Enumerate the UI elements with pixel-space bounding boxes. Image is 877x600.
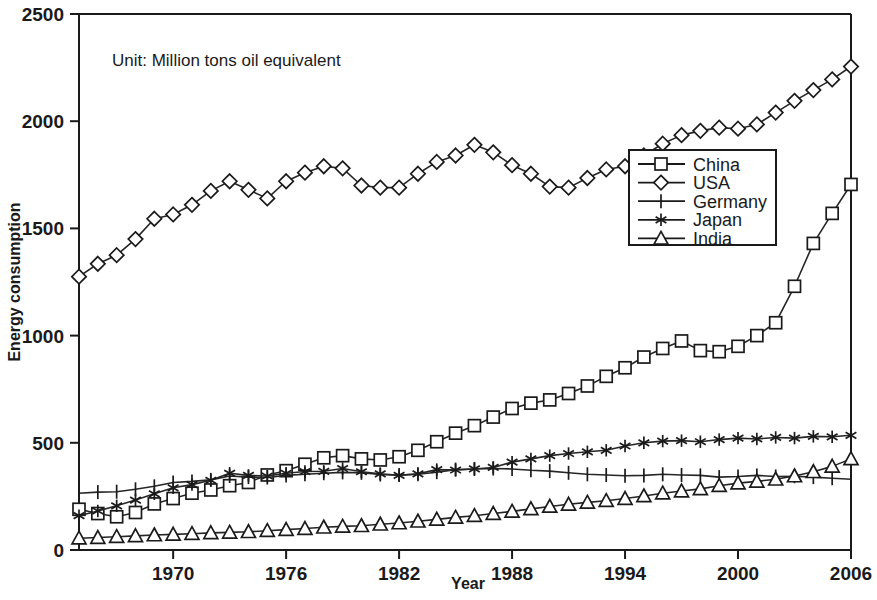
data-point-diamond <box>543 179 557 193</box>
data-point-diamond <box>185 198 199 212</box>
data-point-diamond <box>524 167 538 181</box>
data-point-diamond <box>317 159 331 173</box>
data-point-square <box>713 346 725 358</box>
data-point-square <box>807 237 819 249</box>
data-point-diamond <box>241 183 255 197</box>
legend-item-label: USA <box>693 173 730 193</box>
data-point-square <box>129 506 141 518</box>
data-point-diamond <box>72 269 86 283</box>
data-point-diamond <box>505 158 519 172</box>
data-point-diamond <box>712 120 726 134</box>
legend-item-label: China <box>693 155 741 175</box>
data-point-square <box>355 453 367 465</box>
data-point-diamond <box>787 94 801 108</box>
data-point-square <box>694 345 706 357</box>
data-point-diamond <box>731 122 745 136</box>
x-tick-label: 1970 <box>152 563 194 584</box>
y-axis-title: Energy consumption <box>6 202 23 361</box>
data-point-square <box>374 454 386 466</box>
series-path <box>79 435 851 515</box>
x-tick-label: 2006 <box>830 563 872 584</box>
data-point-diamond <box>204 184 218 198</box>
data-point-square <box>525 397 537 409</box>
data-point-diamond <box>166 207 180 221</box>
data-point-diamond <box>693 124 707 138</box>
data-point-diamond <box>222 174 236 188</box>
data-point-square <box>468 420 480 432</box>
data-point-square <box>655 158 667 170</box>
data-point-square <box>393 451 405 463</box>
data-point-square <box>412 444 424 456</box>
legend-item-label: India <box>693 229 733 249</box>
data-point-diamond <box>298 165 312 179</box>
x-tick-label: 1988 <box>491 563 533 584</box>
x-tick-label: 1994 <box>604 563 647 584</box>
chart-canvas: 05001000150020002500 1970197619821988199… <box>0 0 877 600</box>
data-point-square <box>487 411 499 423</box>
data-point-diamond <box>825 72 839 86</box>
data-point-square <box>826 207 838 219</box>
data-point-diamond <box>467 138 481 152</box>
unit-annotation: Unit: Million tons oil equivalent <box>112 51 341 70</box>
data-point-square <box>431 436 443 448</box>
data-point-diamond <box>806 83 820 97</box>
y-tick-label: 2000 <box>22 111 64 132</box>
data-point-square <box>167 493 179 505</box>
data-point-square <box>450 427 462 439</box>
data-point-square <box>676 335 688 347</box>
x-axis-title: Year <box>451 575 485 592</box>
legend-item-label: Germany <box>693 192 767 212</box>
data-point-diamond <box>430 155 444 169</box>
x-tick-label: 2000 <box>717 563 759 584</box>
x-tick-label: 1976 <box>265 563 307 584</box>
legend-item-label: Japan <box>693 210 742 230</box>
data-point-asterisk <box>130 494 141 506</box>
y-tick-label: 1500 <box>22 218 64 239</box>
data-point-diamond <box>844 59 858 73</box>
data-point-diamond <box>392 180 406 194</box>
x-tick-label: 1982 <box>378 563 420 584</box>
data-point-square <box>111 511 123 523</box>
data-point-diamond <box>373 180 387 194</box>
data-point-square <box>600 370 612 382</box>
data-point-square <box>751 330 763 342</box>
data-point-triangle <box>825 459 839 472</box>
data-point-diamond <box>561 180 575 194</box>
data-point-square <box>619 362 631 374</box>
data-point-diamond <box>448 148 462 162</box>
data-point-square <box>789 280 801 292</box>
y-tick-label: 500 <box>32 433 64 454</box>
data-point-diamond <box>599 162 613 176</box>
y-tick-label: 0 <box>53 540 64 561</box>
data-point-square <box>845 178 857 190</box>
energy-consumption-line-chart: 05001000150020002500 1970197619821988199… <box>0 0 877 600</box>
data-point-triangle <box>844 452 858 465</box>
data-point-diamond <box>91 257 105 271</box>
data-point-square <box>770 317 782 329</box>
data-point-diamond <box>656 137 670 151</box>
data-point-square <box>581 380 593 392</box>
data-point-square <box>638 351 650 363</box>
data-point-diamond <box>580 171 594 185</box>
y-tick-label: 1000 <box>22 326 64 347</box>
data-point-square <box>563 387 575 399</box>
data-series-layer <box>72 59 858 544</box>
data-point-diamond <box>411 167 425 181</box>
data-point-square <box>732 340 744 352</box>
y-axis-ticks: 05001000150020002500 <box>22 4 79 561</box>
data-point-square <box>506 402 518 414</box>
y-tick-label: 2500 <box>22 4 64 25</box>
data-point-square <box>318 452 330 464</box>
data-point-square <box>544 394 556 406</box>
data-point-diamond <box>750 117 764 131</box>
data-point-square <box>337 450 349 462</box>
chart-legend[interactable]: ChinaUSAGermanyJapanIndia <box>629 150 776 249</box>
data-point-square <box>657 342 669 354</box>
data-point-diamond <box>486 145 500 159</box>
data-point-diamond <box>674 128 688 142</box>
x-axis-ticks: 1970197619821988199420002006 <box>152 550 872 584</box>
data-point-diamond <box>768 105 782 119</box>
series-japan <box>74 429 857 522</box>
